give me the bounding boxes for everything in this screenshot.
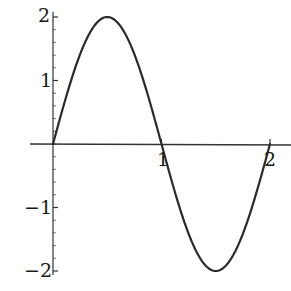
y-tick-label-minus-2: −2 (24, 261, 52, 280)
y-tick-label-minus-1: −1 (24, 198, 52, 217)
x-tick-label-1: 1 (157, 150, 169, 169)
y-tick-label-2: 2 (38, 6, 50, 25)
y-tick-label-1: 1 (40, 71, 52, 90)
sine-plot (0, 0, 291, 291)
x-tick-label-2: 2 (264, 150, 276, 169)
x-axis-ticks (162, 139, 271, 144)
